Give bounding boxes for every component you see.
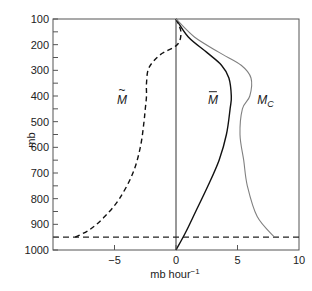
x-axis-title: mb hour−1 <box>150 267 200 280</box>
series-group <box>75 19 274 250</box>
y-axis-title: mb <box>25 132 37 147</box>
x-tick-label: 5 <box>234 254 240 266</box>
x-tick-label: 10 <box>293 254 305 266</box>
y-tick-label: 300 <box>31 64 49 76</box>
m-bar-curve <box>176 19 231 250</box>
x-tick-label: 0 <box>173 254 179 266</box>
m-c-curve <box>176 19 274 237</box>
m-tilde-curve <box>75 19 181 237</box>
label-m-bar: M <box>208 93 218 107</box>
y-tick-label: 1000 <box>25 244 49 256</box>
y-tick-label: 100 <box>31 13 49 25</box>
tilde-accent: ~ <box>118 83 125 97</box>
label-m-c: MC <box>257 93 274 109</box>
y-tick-label: 400 <box>31 90 49 102</box>
y-tick-label: 800 <box>31 193 49 205</box>
y-tick-label: 700 <box>31 167 49 179</box>
x-tick-label: −5 <box>108 254 121 266</box>
curve-labels: M~MMC <box>117 83 274 109</box>
chart: 1002003004005006007008009001000 −50510 M… <box>0 0 312 291</box>
y-tick-label: 900 <box>31 218 49 230</box>
y-tick-label: 200 <box>31 39 49 51</box>
x-axis: −50510 <box>108 245 305 266</box>
reference-lines <box>53 19 299 250</box>
y-tick-label: 500 <box>31 116 49 128</box>
